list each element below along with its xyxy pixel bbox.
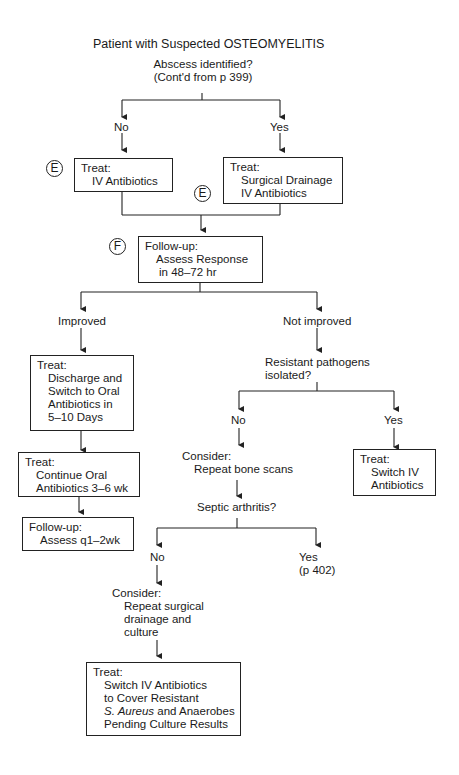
abscess-question-line2: (Cont'd from p 399) (150, 71, 256, 84)
box-followup-assess-response: Follow-up: Assess Response in 48–72 hr (138, 236, 263, 283)
septic-yes-line1: Yes (299, 551, 335, 564)
box-heading: Treat: (230, 161, 336, 174)
consider-surgical-drainage: Consider: Repeat surgical drainage and c… (112, 587, 204, 639)
box-treat-iv-antibiotics: Treat: IV Antibiotics (74, 158, 173, 192)
abscess-question-line1: Abscess identified? (150, 58, 256, 71)
box-treat-final: Treat: Switch IV Antibiotics to Cover Re… (86, 662, 241, 736)
box-treat-discharge: Treat: Discharge and Switch to Oral Anti… (30, 355, 134, 431)
not-improved-label: Not improved (283, 315, 351, 328)
septic-arthritis-question: Septic arthritis? (197, 501, 276, 514)
septic-yes-label: Yes (p 402) (299, 551, 335, 577)
marker-e-left: E (46, 160, 63, 177)
box-treat-switch-iv: Treat: Switch IV Antibiotics (353, 449, 436, 496)
marker-e-right: E (194, 185, 211, 202)
improved-label: Improved (58, 315, 106, 328)
consider-line: Repeat surgical (112, 600, 204, 613)
box-heading: Treat: (93, 666, 234, 679)
box-line: Pending Culture Results (93, 718, 234, 731)
box-line: Antibiotics 3–6 wk (25, 482, 133, 495)
box-line: in 48–72 hr (145, 266, 256, 279)
consider-line: drainage and (112, 613, 204, 626)
septic-yes-page-ref: (p 402) (299, 564, 335, 577)
organism-name: S. Aureus (104, 705, 154, 717)
box-line: IV Antibiotics (230, 187, 336, 200)
box-line: to Cover Resistant (93, 692, 234, 705)
resistant-pathogens-question: Resistant pathogens isolated? (265, 356, 370, 382)
box-heading: Treat: (360, 453, 429, 466)
box-line: Switch IV Antibiotics (93, 679, 234, 692)
box-heading: Treat: (25, 456, 133, 469)
septic-no-label: No (150, 551, 165, 564)
resistant-question-line2: isolated? (265, 369, 370, 382)
box-heading: Treat: (81, 162, 166, 175)
consider-heading: Consider: (182, 450, 293, 463)
branch-yes-label: Yes (270, 121, 289, 134)
box-line: Antibiotics in (37, 398, 127, 411)
box-line: Discharge and (37, 372, 127, 385)
box-line: 5–10 Days (37, 411, 127, 424)
resistant-no-label: No (231, 414, 246, 427)
box-line: Surgical Drainage (230, 174, 336, 187)
consider-line: culture (112, 626, 204, 639)
branch-no-label: No (114, 121, 129, 134)
organism-rest: and Anaerobes (154, 705, 235, 717)
box-treat-surgical-drainage: Treat: Surgical Drainage IV Antibiotics (223, 157, 343, 204)
box-heading: Treat: (37, 359, 127, 372)
box-followup-assess-q1-2wk: Follow-up: Assess q1–2wk (22, 517, 134, 551)
box-line: Assess q1–2wk (29, 534, 127, 547)
consider-bone-scans: Consider: Repeat bone scans (182, 450, 293, 476)
consider-line: Repeat bone scans (182, 463, 293, 476)
box-line: Switch to Oral (37, 385, 127, 398)
box-line: Antibiotics (360, 479, 429, 492)
box-heading: Follow-up: (29, 521, 127, 534)
box-line: Switch IV (360, 466, 429, 479)
box-line: IV Antibiotics (81, 175, 166, 188)
box-heading: Follow-up: (145, 240, 256, 253)
chart-title: Patient with Suspected OSTEOMYELITIS (93, 38, 324, 51)
abscess-question: Abscess identified? (Cont'd from p 399) (150, 58, 256, 84)
box-line: Assess Response (145, 253, 256, 266)
box-line: Continue Oral (25, 469, 133, 482)
box-line-organisms: S. Aureus and Anaerobes (93, 705, 234, 718)
box-treat-continue-oral: Treat: Continue Oral Antibiotics 3–6 wk (18, 452, 140, 497)
resistant-yes-label: Yes (384, 414, 403, 427)
resistant-question-line1: Resistant pathogens (265, 356, 370, 369)
consider-heading: Consider: (112, 587, 204, 600)
marker-f: F (109, 238, 126, 255)
